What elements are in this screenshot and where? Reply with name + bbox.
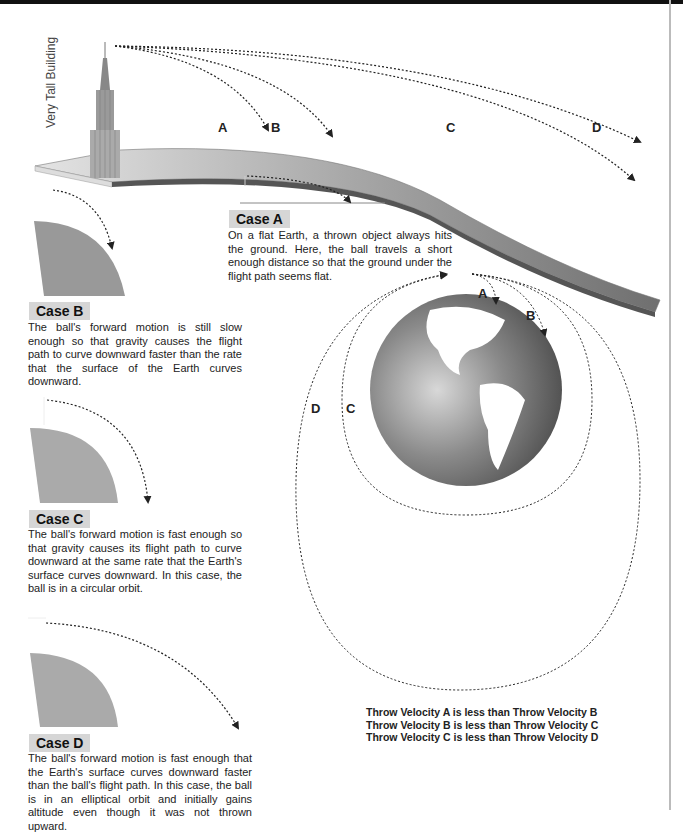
summary-line: Throw Velocity C is less than Throw Velo… [366, 731, 598, 744]
building-icon [90, 42, 120, 178]
case-c-text: The ball's forward motion is fast enough… [28, 528, 242, 596]
velocity-summary: Throw Velocity A is less than Throw Velo… [366, 706, 598, 744]
case-a-title: Case A [229, 210, 290, 228]
case-b-text: The ball's forward motion is still slow … [28, 321, 242, 389]
case-a-text: On a flat Earth, a thrown object always … [228, 229, 452, 283]
globe-path-label-c: C [346, 401, 355, 416]
globe-path-label-b: B [526, 308, 535, 323]
case-c-illustration [30, 397, 148, 503]
globe-path-label-a: A [478, 286, 487, 301]
summary-line: Throw Velocity A is less than Throw Velo… [366, 706, 598, 719]
top-path-label-d: D [592, 120, 601, 135]
case-b-illustration [34, 190, 125, 296]
globe-path-label-d: D [311, 401, 320, 416]
building-label: Very Tall Building [44, 37, 58, 128]
top-path-label-c: C [446, 120, 455, 135]
case-d-illustration [28, 618, 238, 728]
top-path-label-a: A [218, 120, 227, 135]
top-path-label-b: B [271, 120, 280, 135]
case-d-title: Case D [29, 734, 90, 752]
summary-line: Throw Velocity B is less than Throw Velo… [366, 719, 598, 732]
case-d-text: The ball's forward motion is fast enough… [28, 752, 252, 833]
case-c-title: Case C [29, 510, 90, 528]
case-b-title: Case B [29, 302, 90, 320]
